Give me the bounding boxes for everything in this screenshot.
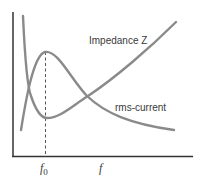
f0-subscript: 0 bbox=[43, 167, 48, 177]
f0-tick-label: f0 bbox=[40, 161, 48, 177]
impedance-label: Impedance Z bbox=[89, 35, 147, 46]
rms-current-label: rms-current bbox=[115, 102, 166, 113]
chart-canvas bbox=[0, 0, 202, 181]
x-axis-label: f bbox=[99, 161, 102, 176]
